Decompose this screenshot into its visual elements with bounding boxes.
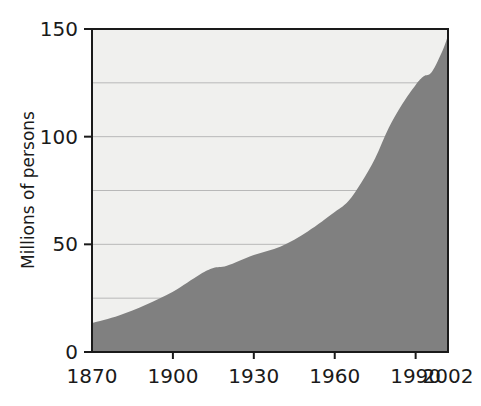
x-tick-label: 1930 xyxy=(228,364,279,388)
x-axis-ticks xyxy=(173,352,416,359)
x-axis-tick-labels: 187019001930196019902002 xyxy=(67,364,474,388)
area-chart: 187019001930196019902002 050100150 Milli… xyxy=(0,0,481,406)
y-tick-label: 100 xyxy=(40,125,78,149)
y-tick-label: 0 xyxy=(65,340,78,364)
y-axis-label: Millions of persons xyxy=(18,111,38,269)
x-tick-label: 1870 xyxy=(67,364,118,388)
x-tick-label: 2002 xyxy=(423,364,474,388)
y-axis-tick-labels: 050100150 xyxy=(40,17,78,364)
x-tick-label: 1900 xyxy=(147,364,198,388)
y-axis-ticks xyxy=(84,29,92,352)
y-tick-label: 150 xyxy=(40,17,78,41)
chart-figure: 187019001930196019902002 050100150 Milli… xyxy=(0,0,481,406)
y-tick-label: 50 xyxy=(53,232,78,256)
x-tick-label: 1960 xyxy=(309,364,360,388)
